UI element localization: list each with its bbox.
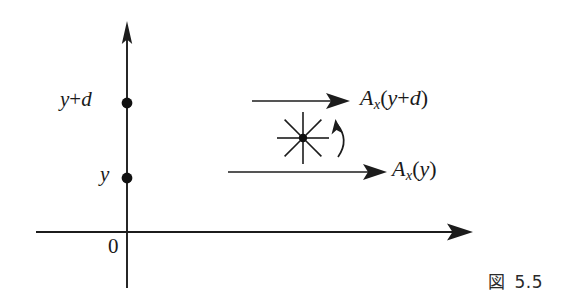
point-dot-y-plus-d [122, 98, 133, 109]
vector-label-lower-open-paren: ( [412, 156, 419, 181]
vector-label-lower-symbol: A [392, 156, 405, 181]
rotation-arrowhead [332, 119, 344, 135]
figure-caption-number: 5.5 [515, 272, 544, 292]
vector-label-lower-close-paren: ) [429, 156, 436, 181]
vector-label-upper-var2: d [410, 85, 421, 110]
axis-label-y: y [100, 164, 109, 185]
diagram-canvas [0, 0, 572, 308]
point-dot-y [122, 173, 133, 184]
rotation-arrow [332, 119, 344, 157]
vector-label-upper-close-paren: ) [421, 85, 428, 110]
axis-label-y-plus-d-op: + [69, 87, 81, 111]
vector-label-lower-var1: y [420, 156, 430, 181]
figure-caption-symbol: 図 [488, 272, 506, 292]
starburst-center-dot [299, 134, 307, 142]
axis-label-y-plus-d-var1: y [60, 87, 69, 111]
vector-label-ax-y: Ax(y) [392, 158, 437, 183]
figure-caption: 図5.5 [488, 268, 543, 293]
origin-label: 0 [108, 236, 119, 257]
vector-label-upper-op: + [397, 85, 409, 110]
vector-label-upper-var1: y [388, 85, 398, 110]
curl-point-starburst [277, 112, 329, 164]
vector-label-upper-symbol: A [360, 85, 373, 110]
vector-label-ax-y-plus-d: Ax(y+d) [360, 87, 428, 112]
axis-label-y-plus-d: y+d [60, 89, 92, 110]
figure-5-5-diagram: y+d y 0 Ax(y+d) Ax(y) 図5.5 [0, 0, 572, 308]
vector-label-upper-open-paren: ( [380, 85, 387, 110]
axis-label-y-plus-d-var2: d [81, 87, 92, 111]
